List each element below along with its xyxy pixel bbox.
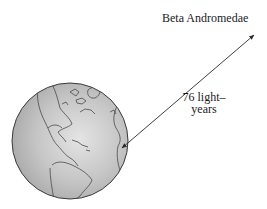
distance-label-line2: years [176, 103, 232, 115]
distance-label: 76 light– years [176, 91, 232, 115]
star-label: Beta Andromedae [162, 11, 248, 26]
earth-globe [12, 83, 128, 204]
